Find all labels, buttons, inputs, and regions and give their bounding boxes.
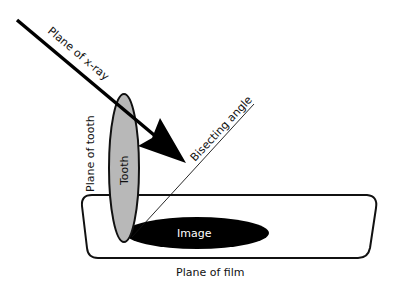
tooth-plane-label: Plane of tooth (84, 115, 97, 192)
film-plane-label: Plane of film (176, 266, 244, 279)
xray-arrowhead-icon (138, 118, 186, 163)
tooth-label: Tooth (118, 155, 131, 186)
image-label: Image (177, 227, 212, 240)
bisecting-angle-diagram: Plane of x-ray Plane of tooth Tooth Bise… (0, 0, 396, 285)
bisecting-angle-label: Bisecting angle (188, 93, 255, 164)
